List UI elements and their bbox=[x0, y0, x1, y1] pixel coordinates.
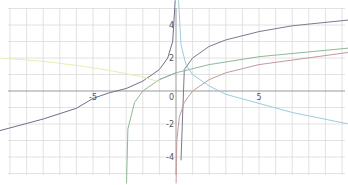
y-tick-label: 0 bbox=[169, 93, 174, 102]
curve-teal-line bbox=[159, 73, 176, 80]
curves bbox=[0, 0, 348, 183]
y-tick-label: -4 bbox=[166, 153, 174, 162]
curve-dark-gray-right bbox=[181, 20, 348, 160]
y-tick-label: 4 bbox=[169, 21, 174, 30]
curve-red-ln-x bbox=[176, 52, 348, 183]
x-tick-label: 5 bbox=[256, 93, 261, 102]
x-tick-label: -5 bbox=[89, 93, 97, 102]
y-tick-label: 2 bbox=[169, 54, 174, 63]
curve-blue-decreasing bbox=[179, 0, 348, 124]
curve-yellow-faint bbox=[0, 58, 159, 82]
y-tick-label: -2 bbox=[166, 120, 174, 129]
function-plot[interactable]: -55420-2-4 bbox=[0, 0, 348, 185]
